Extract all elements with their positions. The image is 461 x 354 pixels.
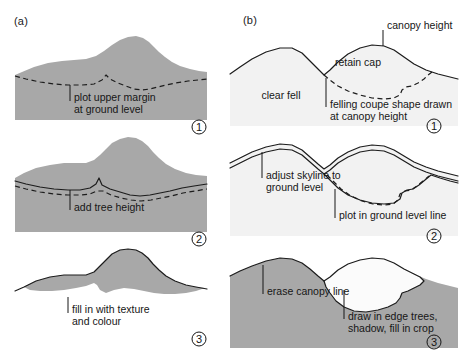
b1-annotation-retain-cap: retain cap (335, 56, 381, 68)
a1-step-number: 1 (196, 121, 202, 133)
b2-annotation-skyline-line2: ground level (266, 181, 323, 193)
panel-a1: plot upper margin at ground level 1 (15, 36, 207, 134)
a3-step-number: 3 (196, 333, 202, 345)
b3-annotation-edge-line2: shadow, fill in crop (348, 322, 434, 334)
b2-step-number: 2 (431, 230, 437, 242)
b1-step-number: 1 (431, 120, 437, 132)
a1-annotation-line2: at ground level (74, 103, 143, 115)
b2-annotation-skyline-line1: adjust skyline to (266, 169, 341, 181)
b1-annotation-canopy-height: canopy height (387, 19, 452, 31)
b3-annotation-erase: erase canopy line (267, 285, 349, 297)
b1-annotation-coupe-line2: at canopy height (330, 110, 407, 122)
a1-step-badge: 1 (192, 120, 206, 134)
b1-annotation-coupe-line1: felling coupe shape drawn (330, 98, 452, 110)
b1-annotation-clear-fell: clear fell (261, 89, 300, 101)
a3-plot-shape (24, 249, 205, 294)
panel-b2: adjust skyline to ground level plot in g… (230, 144, 458, 243)
a2-annotation-line1: add tree height (74, 201, 144, 213)
a1-annotation-line1: plot upper margin (74, 91, 156, 103)
a2-step-badge: 2 (192, 232, 206, 246)
diagram-figure: (a) (b) plot upper margin at ground leve… (0, 0, 461, 354)
diagram-canvas: plot upper margin at ground level 1 add … (0, 0, 461, 354)
a3-step-badge: 3 (192, 332, 206, 346)
a2-landform-mass (15, 137, 207, 232)
panel-a2: add tree height 2 (15, 137, 207, 246)
b3-step-number: 3 (431, 336, 437, 348)
column-label-a: (a) (14, 15, 28, 27)
panel-b3: erase canopy line draw in edge trees, sh… (230, 258, 458, 349)
panel-a3: fill in with texture and colour 3 (15, 249, 207, 346)
b2-skyline-fill (230, 144, 458, 236)
column-label-b: (b) (243, 14, 257, 26)
a3-annotation-line1: fill in with texture (72, 303, 150, 315)
b3-annotation-edge-line1: draw in edge trees, (348, 310, 437, 322)
b2-annotation-ground-line: plot in ground level line (339, 209, 447, 221)
a3-annotation-line2: and colour (72, 315, 122, 327)
panel-b1: canopy height retain cap clear fell fell… (230, 19, 458, 133)
a2-step-number: 2 (196, 233, 202, 245)
